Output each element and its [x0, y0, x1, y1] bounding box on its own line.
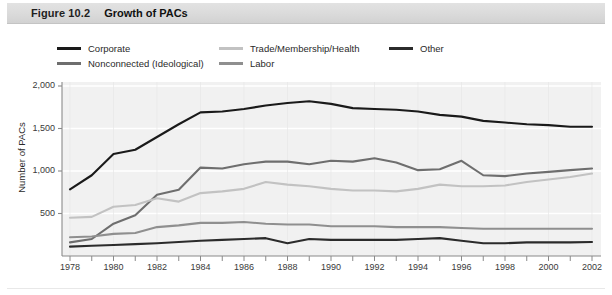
bottom-divider — [7, 288, 605, 289]
figure-container: Figure 10.2 Growth of PACs Corporate Non… — [0, 0, 612, 295]
line-chart-svg — [0, 0, 612, 295]
plot-area: Number of PACs 5001,0001,5002,000 197819… — [0, 0, 612, 295]
